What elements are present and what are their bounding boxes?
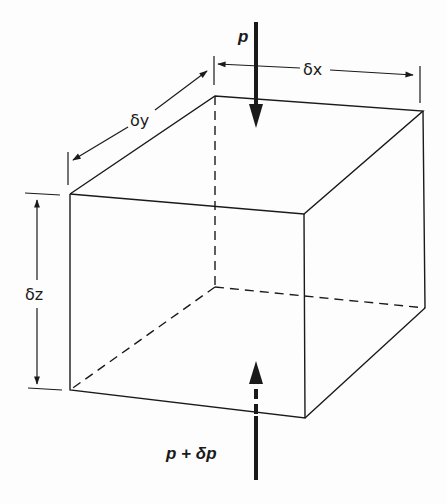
bottom-pressure-label: p + δp (165, 444, 217, 463)
dim-x-label: δx (303, 60, 322, 79)
cube-top-face (70, 96, 423, 214)
arrow-top (249, 22, 263, 128)
cube-hidden-edges (70, 96, 425, 390)
cube-right-face (305, 111, 425, 418)
arrow-down-icon (249, 104, 263, 128)
arrow-up-icon (249, 361, 263, 384)
dim-z-label: δz (25, 285, 43, 304)
dim-y-label: δy (130, 111, 149, 130)
top-pressure-label: p (237, 27, 248, 46)
cube (70, 96, 425, 418)
cube-pressure-diagram: δx δy δz p p + δp (0, 0, 447, 504)
diagram-canvas: δx δy δz p p + δp (0, 0, 447, 504)
arrow-bottom (249, 361, 263, 480)
